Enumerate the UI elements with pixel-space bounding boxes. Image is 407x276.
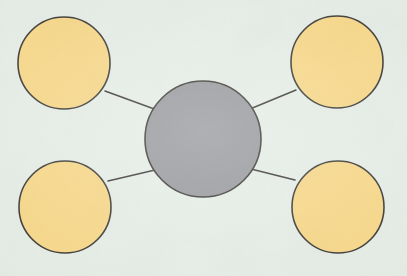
node-bottom-left[interactable]: [19, 161, 111, 253]
diagram-canvas: [0, 0, 407, 276]
node-bottom-right[interactable]: [292, 161, 384, 253]
hub-node[interactable]: [145, 81, 261, 197]
node-top-left[interactable]: [18, 17, 110, 109]
node-top-right[interactable]: [291, 16, 383, 108]
hub-and-spoke-diagram: [0, 0, 407, 276]
